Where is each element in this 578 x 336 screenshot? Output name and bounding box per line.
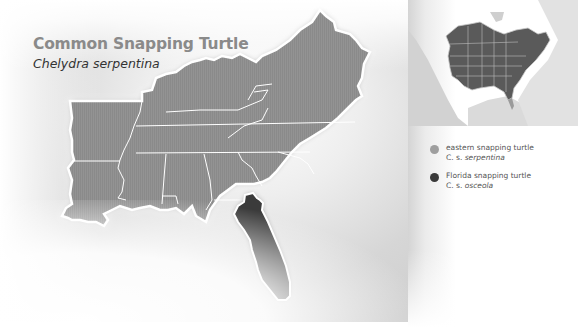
map-subtitle: Chelydra serpentina — [33, 56, 160, 71]
map-bottom-fade — [0, 200, 408, 322]
legend-scientific-name: C. s. osceola — [446, 181, 534, 191]
eastern-swatch-icon — [430, 145, 439, 154]
map-title: Common Snapping Turtle — [33, 35, 248, 53]
legend: eastern snapping turtle C. s. serpentina… — [430, 143, 534, 199]
legend-item-eastern: eastern snapping turtle C. s. serpentina — [430, 143, 534, 163]
legend-scientific-name: C. s. serpentina — [446, 153, 534, 163]
legend-item-florida: Florida snapping turtle C. s. osceola — [430, 171, 534, 191]
side-panel-fade — [408, 250, 578, 336]
legend-common-name: eastern snapping turtle — [446, 143, 534, 153]
north-america-inset-map — [408, 0, 578, 126]
legend-common-name: Florida snapping turtle — [446, 171, 534, 181]
florida-swatch-icon — [430, 173, 439, 182]
